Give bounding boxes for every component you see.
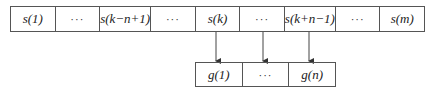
cell-g-n: g(n) bbox=[289, 63, 335, 86]
cell-g-1: g(1) bbox=[196, 63, 243, 86]
cell-ellipsis: ··· bbox=[243, 63, 290, 86]
sequence-g-row: g(1) ··· g(n) bbox=[195, 62, 336, 87]
